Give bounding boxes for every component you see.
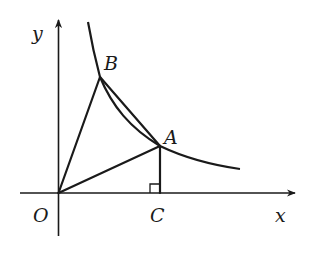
origin-label: O	[33, 204, 49, 226]
diagram-figure: y x O B A C	[0, 0, 313, 260]
x-axis-label: x	[275, 204, 286, 226]
point-B-label: B	[103, 52, 118, 74]
point-C-label: C	[150, 204, 165, 226]
segment-AB	[100, 77, 160, 146]
point-A-label: A	[162, 126, 178, 148]
right-angle-marker	[150, 184, 160, 193]
y-axis-label: y	[31, 22, 43, 44]
diagram-canvas: y x O B A C	[0, 0, 313, 260]
